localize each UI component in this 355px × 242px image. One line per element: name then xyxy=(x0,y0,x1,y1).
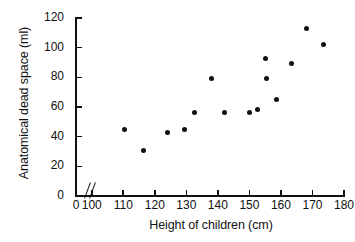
x-tick-label: 110 xyxy=(108,198,138,212)
x-tick-label: 100 xyxy=(77,198,107,212)
data-point xyxy=(264,76,269,81)
y-tick xyxy=(76,166,82,168)
x-tick xyxy=(249,190,251,196)
x-tick-label: 130 xyxy=(171,198,201,212)
x-axis-line xyxy=(75,195,345,197)
data-point xyxy=(182,127,187,132)
y-tick xyxy=(76,195,82,197)
data-point xyxy=(274,97,279,102)
x-tick-label: 120 xyxy=(140,198,170,212)
x-tick-label: 150 xyxy=(234,198,264,212)
data-point xyxy=(321,42,326,47)
x-tick-label: 180 xyxy=(329,198,355,212)
y-axis-label: Anatomical dead space (ml) xyxy=(17,3,31,203)
x-tick xyxy=(186,190,188,196)
y-tick-label: 100 xyxy=(30,40,64,54)
data-point xyxy=(255,107,260,112)
x-tick-label: 140 xyxy=(203,198,233,212)
x-tick xyxy=(312,190,314,196)
y-tick-label: 80 xyxy=(30,69,64,83)
data-point xyxy=(122,127,127,132)
data-point xyxy=(289,61,294,66)
y-tick xyxy=(76,77,82,79)
x-tick-label: 160 xyxy=(266,198,296,212)
y-tick-label: 20 xyxy=(30,158,64,172)
y-tick-label: 120 xyxy=(30,10,64,24)
x-tick xyxy=(91,190,93,196)
data-point xyxy=(304,26,309,31)
x-tick xyxy=(280,190,282,196)
y-tick xyxy=(76,47,82,49)
data-point xyxy=(263,56,268,61)
data-point xyxy=(192,110,197,115)
x-tick xyxy=(122,190,124,196)
x-tick xyxy=(154,190,156,196)
y-tick xyxy=(76,106,82,108)
data-point xyxy=(222,110,227,115)
y-tick-label: 40 xyxy=(30,129,64,143)
x-axis-label: Height of children (cm) xyxy=(76,218,346,232)
y-tick-label: 60 xyxy=(30,99,64,113)
x-tick xyxy=(217,190,219,196)
scatter-plot-figure: Anatomical dead space (ml) Height of chi… xyxy=(0,0,355,242)
data-point xyxy=(209,76,214,81)
y-tick-label: 0 xyxy=(30,188,64,202)
data-point xyxy=(165,130,170,135)
data-point xyxy=(141,148,146,153)
data-point xyxy=(247,110,252,115)
y-tick xyxy=(76,17,82,19)
y-tick xyxy=(76,136,82,138)
x-tick xyxy=(343,190,345,196)
x-tick-label: 170 xyxy=(297,198,327,212)
